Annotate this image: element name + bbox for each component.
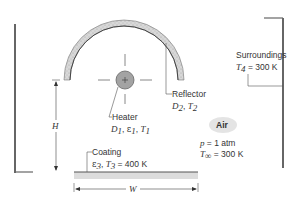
coating-params: ε3, T3 = 400 K: [92, 159, 147, 171]
coating-title: Coating: [92, 147, 122, 157]
diagram-canvas: Surroundings T4 = 300 K Reflector D2, T2…: [0, 0, 300, 204]
width-label: W: [129, 184, 138, 194]
reflector-title: Reflector: [172, 89, 206, 99]
air-label: Air: [216, 120, 229, 130]
height-label: H: [51, 121, 59, 131]
surroundings-title: Surroundings: [236, 50, 287, 60]
heater-params: D1, ε1, T1: [110, 124, 150, 136]
air-temperature: T∞ = 300 K: [200, 149, 244, 161]
coating-plate: [74, 172, 198, 179]
surroundings-right-wall: [264, 18, 283, 168]
heater-title: Heater: [112, 112, 138, 122]
surroundings-leader: [248, 74, 283, 86]
reflector-params: D2, T2: [171, 101, 198, 113]
heater-element: [116, 71, 134, 89]
surroundings-temperature: T4 = 300 K: [236, 62, 278, 74]
air-pressure: p = 1 atm: [199, 138, 235, 148]
surroundings-left-wall: [15, 24, 33, 173]
